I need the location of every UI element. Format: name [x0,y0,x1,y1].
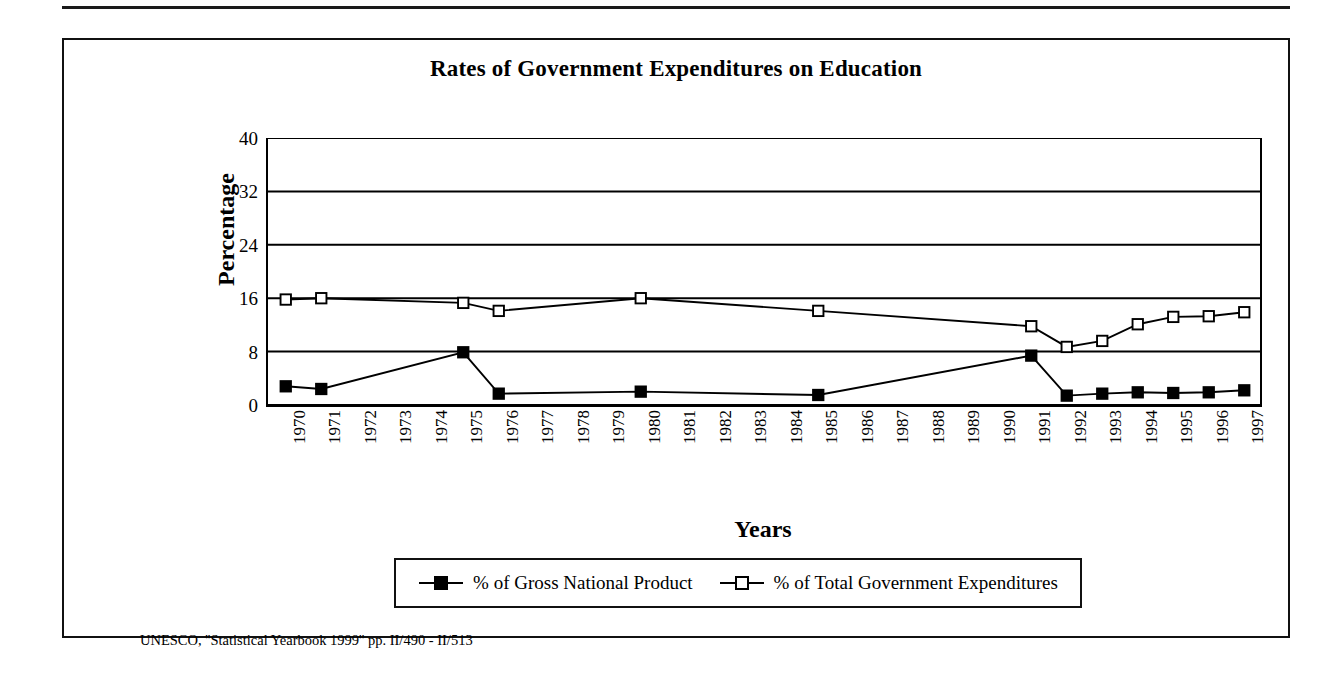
x-tick-label: 1990 [1001,410,1018,444]
data-point-filled-square [636,386,646,396]
legend-label: % of Gross National Product [473,572,693,594]
data-point-filled-square [1097,388,1107,398]
x-tick-label: 1983 [752,410,769,444]
y-tick-label: 0 [212,396,258,415]
data-point-open-square [1239,307,1249,317]
data-point-filled-square [1062,390,1072,400]
figure-page: Rates of Government Expenditures on Educ… [0,0,1344,693]
data-point-filled-square [458,347,468,357]
x-axis-title: Years [266,516,1260,543]
x-tick-label: 1975 [468,410,485,444]
data-point-filled-square [494,388,504,398]
data-point-filled-square [281,381,291,391]
legend-label: % of Total Government Expenditures [774,572,1058,594]
x-tick-label: 1972 [362,410,379,444]
data-point-filled-square [1133,387,1143,397]
x-tick-label: 1988 [930,410,947,444]
data-point-open-square [494,306,504,316]
plot-area [266,138,1262,407]
y-tick-label: 24 [212,235,258,254]
x-tick-label: 1981 [681,410,698,444]
x-tick-label: 1996 [1214,410,1231,444]
x-tick-label: 1979 [610,410,627,444]
x-tick-label: 1995 [1178,410,1195,444]
legend-entry[interactable]: % of Gross National Product [418,572,693,594]
data-point-open-square [1097,336,1107,346]
data-point-filled-square [1239,385,1249,395]
x-tick-label: 1987 [894,410,911,444]
x-tick-label: 1986 [859,410,876,444]
top-horizontal-rule [62,6,1290,9]
x-axis-tick-labels: 1970197119721973197419751976197719781979… [266,410,1260,510]
x-tick-label: 1976 [504,410,521,444]
x-tick-label: 1985 [823,410,840,444]
y-tick-label: 8 [212,342,258,361]
data-point-open-square [1168,312,1178,322]
chart-title: Rates of Government Expenditures on Educ… [64,56,1288,82]
data-point-filled-square [316,384,326,394]
data-point-open-square [458,298,468,308]
x-tick-label: 1978 [575,410,592,444]
data-point-filled-square [1204,387,1214,397]
x-tick-label: 1989 [965,410,982,444]
x-tick-label: 1973 [397,410,414,444]
data-point-open-square [1026,321,1036,331]
x-tick-label: 1980 [646,410,663,444]
y-tick-label: 16 [212,289,258,308]
legend-filled-square-icon [418,574,464,592]
data-point-open-square [813,306,823,316]
legend-open-square-icon [719,574,765,592]
x-tick-label: 1971 [326,410,343,444]
data-point-open-square [1062,342,1072,352]
data-point-open-square [1204,311,1214,321]
data-point-open-square [281,294,291,304]
legend-entry[interactable]: % of Total Government Expenditures [719,572,1058,594]
data-point-open-square [316,293,326,303]
x-tick-label: 1994 [1143,410,1160,444]
x-tick-label: 1993 [1107,410,1124,444]
x-tick-label: 1982 [717,410,734,444]
source-note: UNESCO, ''Statistical Yearbook 1999'' pp… [140,632,473,649]
x-tick-label: 1970 [291,410,308,444]
x-tick-label: 1997 [1249,410,1266,444]
x-tick-label: 1984 [788,410,805,444]
y-tick-label: 40 [212,129,258,148]
y-axis-tick-labels: 0816243240 [200,138,258,405]
figure-frame: Rates of Government Expenditures on Educ… [62,38,1290,638]
x-tick-label: 1992 [1072,410,1089,444]
data-point-filled-square [813,390,823,400]
data-point-open-square [1133,319,1143,329]
plot-svg [268,138,1262,405]
chart-legend: % of Gross National Product% of Total Go… [394,558,1082,608]
data-point-open-square [636,293,646,303]
x-tick-label: 1974 [433,410,450,444]
x-tick-label: 1977 [539,410,556,444]
data-point-filled-square [1168,388,1178,398]
y-tick-label: 32 [212,182,258,201]
data-point-filled-square [1026,350,1036,360]
plot-wrapper: Percentage 0816243240 197019711972197319… [200,138,1260,418]
x-tick-label: 1991 [1036,410,1053,444]
